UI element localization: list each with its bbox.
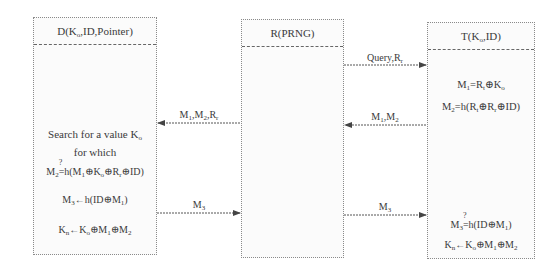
- msg-sub: 2: [395, 116, 399, 124]
- label-query-rr: Query,Rr: [344, 52, 426, 65]
- msg-label: ,R: [207, 109, 216, 120]
- msg-label: M: [371, 111, 380, 122]
- label-m3-r-to-t: M3: [344, 201, 426, 214]
- label-m1-m2: M1,M2: [344, 111, 426, 124]
- msg-sub: r: [216, 114, 218, 122]
- msg-label: M: [193, 199, 202, 210]
- msg-sub: 3: [388, 206, 392, 214]
- msg-label: ,M: [192, 109, 203, 120]
- msg-label: Query,R: [367, 52, 401, 63]
- msg-sub: r: [401, 57, 403, 65]
- msg-label: M: [379, 201, 388, 212]
- message-arrows: [0, 0, 551, 273]
- label-m1-m2-rr: M1,M2,Rr: [157, 109, 241, 122]
- msg-label: ,M: [384, 111, 395, 122]
- msg-sub: 3: [202, 204, 206, 212]
- label-m3-d-to-r: M3: [157, 199, 241, 212]
